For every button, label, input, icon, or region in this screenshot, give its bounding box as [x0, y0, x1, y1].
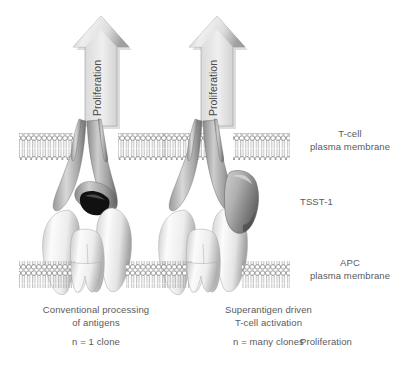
mhc-stalk-through-membrane	[71, 262, 101, 292]
membrane-segment	[233, 133, 290, 160]
caption-panel-superantigen: Superantigen driven T-cell activation	[186, 304, 351, 329]
arrow-label-left: Proliferation	[91, 60, 103, 116]
caption-line2: T-cell activation	[186, 317, 351, 330]
caption-line2: of antigens	[6, 317, 186, 330]
label-tsst1: TSST-1	[296, 196, 404, 209]
caption-line1: Conventional processing	[43, 304, 149, 315]
label-t-cell-membrane: T-cell plasma membrane	[296, 128, 404, 153]
membrane-segment	[126, 261, 166, 288]
label-apc-line2: plasma membrane	[310, 270, 390, 281]
arrow-label-right: Proliferation	[207, 60, 219, 116]
membrane-segment	[118, 133, 166, 160]
label-apc-membrane: APC plasma membrane	[296, 257, 404, 282]
clone-note-conventional: n = 1 clone	[6, 336, 186, 349]
caption-panel-conventional: Conventional processing of antigens	[6, 304, 186, 329]
caption-line1: Superantigen driven	[225, 304, 312, 315]
label-apc-line1: APC	[340, 257, 360, 268]
membrane-segment	[19, 261, 75, 288]
label-t-cell-line2: plasma membrane	[310, 141, 390, 152]
mhc-stalk-through-membrane	[187, 262, 217, 292]
clone-note-superantigen: n = many clones	[186, 336, 351, 349]
proliferation-arrow-right: Proliferation	[189, 16, 248, 129]
apc-plasma-membrane	[19, 261, 290, 288]
membrane-segment	[242, 261, 290, 288]
membrane-segment	[19, 133, 73, 160]
figure-canvas: Proliferation Proliferation	[0, 0, 405, 366]
label-t-cell-line1: T-cell	[338, 128, 361, 139]
t-cell-plasma-membrane	[19, 133, 290, 160]
proliferation-arrow-left: Proliferation	[73, 16, 132, 129]
tsst1-superantigen	[225, 170, 259, 233]
